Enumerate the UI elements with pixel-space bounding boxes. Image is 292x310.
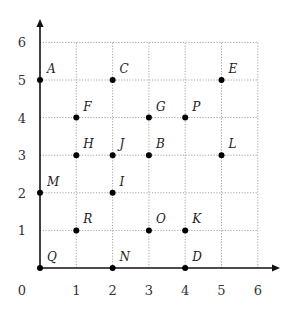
x-tick-label: 2 [108, 283, 116, 298]
point-dot-icon [146, 152, 152, 158]
point-dot-icon [182, 265, 188, 271]
point-label: O [156, 212, 166, 226]
point-dot-icon [146, 115, 152, 121]
point-label: G [156, 100, 166, 114]
point-label: P [191, 100, 201, 114]
y-tick-label: 6 [18, 35, 26, 50]
x-axis-arrow-icon [272, 265, 280, 272]
point-dot-icon [110, 265, 116, 271]
point-label: R [82, 212, 92, 226]
point-label: L [228, 137, 237, 151]
point-label: C [120, 62, 129, 76]
point-dot-icon [219, 77, 225, 83]
y-axis-arrow-icon [37, 19, 44, 27]
point-label: Q [47, 250, 57, 264]
x-tick-labels: 0123456 [18, 283, 262, 298]
point-dot-icon [219, 152, 225, 158]
point-dot-icon [37, 190, 43, 196]
y-tick-label: 1 [18, 223, 26, 238]
point-label: J [117, 137, 126, 151]
point-label: K [191, 212, 202, 226]
point-dot-icon [110, 152, 116, 158]
point-dot-icon [37, 77, 43, 83]
labeled-points: ACEFGPHJBLMIROKQND [37, 62, 238, 271]
point-label: I [119, 175, 125, 189]
x-tick-label: 3 [145, 283, 153, 298]
point-label: B [155, 137, 165, 151]
point-dot-icon [73, 227, 79, 233]
x-tick-label: 6 [254, 283, 262, 298]
point-dot-icon [146, 227, 152, 233]
y-tick-label: 4 [18, 111, 26, 126]
point-dot-icon [37, 265, 43, 271]
x-tick-label: 4 [181, 283, 189, 298]
y-tick-label: 2 [18, 186, 26, 201]
point-label: A [46, 62, 56, 76]
point-dot-icon [182, 227, 188, 233]
point-dot-icon [182, 115, 188, 121]
point-j: J [110, 137, 126, 158]
x-tick-label: 1 [72, 283, 80, 298]
y-tick-label: 3 [18, 148, 26, 163]
x-tick-label: 0 [18, 283, 26, 298]
x-tick-label: 5 [217, 283, 225, 298]
point-label: N [119, 250, 131, 264]
point-dot-icon [110, 190, 116, 196]
coordinate-grid-diagram: 0123456 123456 ACEFGPHJBLMIROKQND [0, 0, 292, 310]
y-tick-labels: 123456 [18, 35, 26, 238]
point-label: F [82, 100, 92, 114]
point-label: M [46, 175, 60, 189]
point-dot-icon [73, 152, 79, 158]
point-dot-icon [110, 77, 116, 83]
y-tick-label: 5 [18, 73, 26, 88]
point-label: H [82, 137, 94, 151]
point-dot-icon [73, 115, 79, 121]
point-label: E [228, 62, 238, 76]
point-label: D [191, 250, 202, 264]
